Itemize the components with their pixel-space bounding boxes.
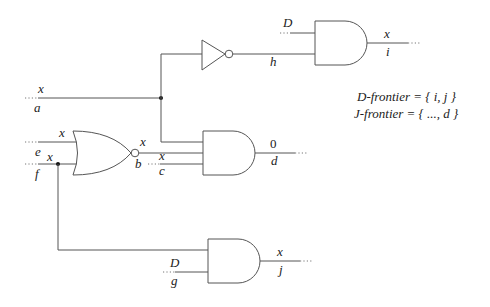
signal-h-name: h <box>270 54 277 69</box>
and-gate-d <box>203 131 255 175</box>
signal-b-value: x <box>139 134 146 149</box>
signal-d-name: d <box>271 153 278 168</box>
and-gate-j <box>208 239 260 283</box>
signal-a: x a <box>25 81 161 115</box>
signal-a-name: a <box>34 100 41 115</box>
signal-i-name: i <box>386 44 390 59</box>
signal-a-value: x <box>37 81 44 96</box>
signal-d-value: 0 <box>270 136 277 151</box>
signal-e-value: x <box>58 125 65 140</box>
wire-a-to-inverter <box>161 54 202 98</box>
signal-b-name: b <box>135 156 142 171</box>
and-i-input-value: D <box>282 15 293 30</box>
d-frontier-label: D-frontier = { i, j } <box>356 89 457 104</box>
wire-a-to-and-d <box>161 98 203 142</box>
signal-g-value: D <box>169 255 180 270</box>
signal-i-value: x <box>383 26 390 41</box>
signal-j-value: x <box>276 244 283 259</box>
wire-f-to-and-j <box>58 164 208 250</box>
signal-j-name: j <box>277 262 283 277</box>
signal-g-name: g <box>171 273 178 288</box>
signal-c-name: c <box>159 163 165 178</box>
signal-c-value: x <box>158 148 165 163</box>
signal-e-name: e <box>35 144 41 159</box>
j-frontier-label: J-frontier = { ..., d } <box>354 106 459 121</box>
nor-gate-b <box>73 131 139 175</box>
logic-circuit-diagram: x a h D x i D-frontier = { i, j } J-fron… <box>0 0 490 307</box>
signal-f-name: f <box>35 166 41 181</box>
signal-f-value: x <box>46 149 53 164</box>
inverter-gate <box>202 40 233 70</box>
and-gate-i <box>315 21 367 65</box>
